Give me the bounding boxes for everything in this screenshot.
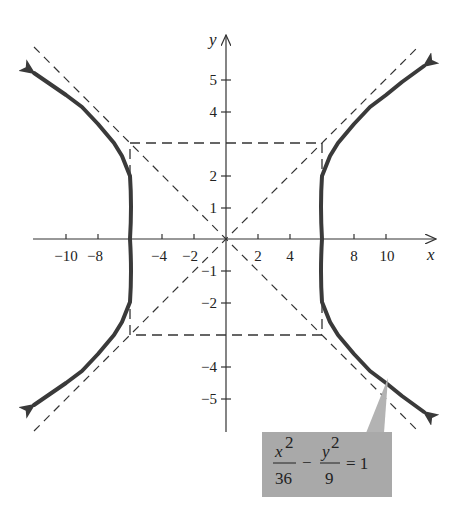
x-tick-labels: −10 −8 −4 −2 2 4 8 10 [54, 248, 394, 264]
x-tick-label: 4 [286, 248, 294, 264]
y-tick-label: −5 [201, 391, 217, 407]
eq-equals-one: = 1 [346, 454, 368, 473]
eq-exp-x: 2 [285, 433, 294, 452]
x-tick-label: −2 [182, 248, 198, 264]
eq-exp-y: 2 [331, 433, 340, 452]
x-tick-label: −10 [54, 248, 77, 264]
x-tick-label: 10 [380, 248, 395, 264]
y-tick-label: −4 [201, 359, 217, 375]
x-tick-label: −4 [151, 248, 167, 264]
hyperbola-chart: x y −10 −8 −4 −2 2 4 8 10 5 4 2 1 [0, 0, 460, 515]
x-tick-label: −8 [87, 248, 103, 264]
y-axis-label: y [207, 30, 217, 49]
eq-minus: − [302, 453, 312, 472]
x-tick-label: 8 [350, 248, 358, 264]
x-axis-label: x [426, 245, 435, 264]
y-tick-label: 2 [210, 168, 218, 184]
y-tick-label: 4 [210, 104, 218, 120]
eq-denominator-left: 36 [275, 469, 292, 488]
y-tick-label: −1 [201, 263, 217, 279]
y-tick-label: 5 [210, 72, 218, 88]
equation-callout: x 2 36 − y 2 9 = 1 [262, 378, 392, 497]
eq-numerator-y: y [320, 442, 330, 461]
eq-numerator-x: x [274, 442, 283, 461]
callout-pointer [366, 378, 388, 433]
x-tick-label: 2 [254, 248, 262, 264]
eq-denominator-right: 9 [325, 469, 334, 488]
y-tick-label: −2 [201, 295, 217, 311]
y-tick-label: 1 [210, 200, 218, 216]
